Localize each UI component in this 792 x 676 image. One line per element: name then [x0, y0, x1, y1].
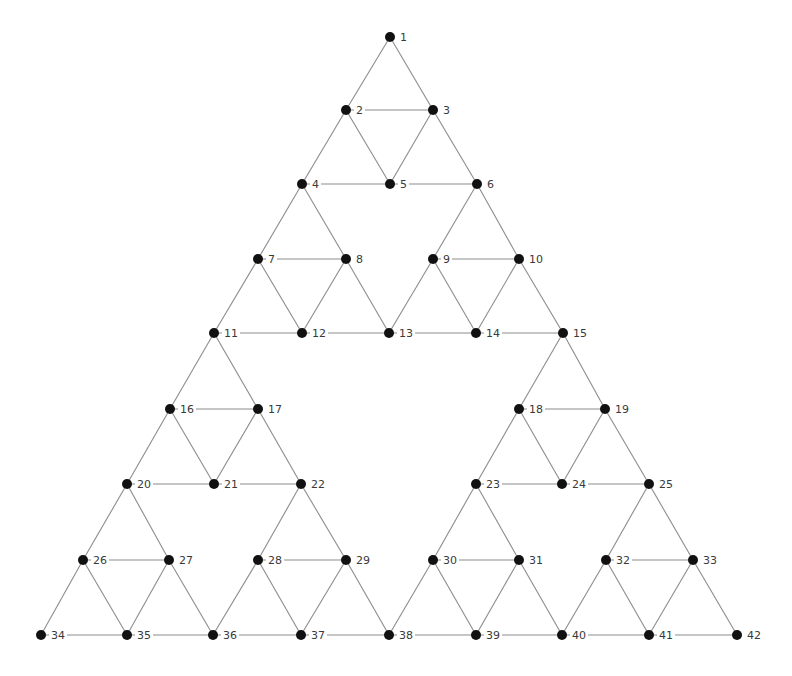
node-label-31: 31 [529, 554, 543, 567]
node-label-9: 9 [443, 253, 450, 266]
node-38 [384, 630, 394, 640]
node-19 [600, 404, 610, 414]
node-12 [297, 328, 307, 338]
sierpinski-graph: 1234567891011121314151617181920212223242… [0, 0, 792, 676]
node-20 [122, 479, 132, 489]
edge-8-13 [346, 259, 389, 333]
edge-30-38 [389, 560, 433, 635]
node-30 [428, 555, 438, 565]
edge-33-42 [693, 560, 737, 635]
node-17 [253, 404, 263, 414]
edge-32-41 [606, 560, 649, 635]
edge-30-39 [433, 560, 476, 635]
node-label-22: 22 [311, 478, 325, 491]
edge-7-12 [258, 259, 302, 333]
node-24 [557, 479, 567, 489]
node-11 [209, 328, 219, 338]
edge-25-33 [649, 484, 693, 560]
node-7 [253, 254, 263, 264]
node-label-29: 29 [356, 554, 370, 567]
node-label-10: 10 [529, 253, 543, 266]
edge-6-9 [433, 184, 477, 259]
edge-18-23 [476, 409, 519, 484]
node-5 [385, 179, 395, 189]
node-27 [164, 555, 174, 565]
edge-28-36 [213, 560, 258, 635]
node-label-4: 4 [312, 178, 319, 191]
edge-16-20 [127, 409, 170, 484]
edge-8-12 [302, 259, 346, 333]
edge-9-14 [433, 259, 476, 333]
node-18 [514, 404, 524, 414]
edge-28-37 [258, 560, 301, 635]
node-label-15: 15 [573, 327, 587, 340]
node-label-21: 21 [224, 478, 238, 491]
edge-18-24 [519, 409, 562, 484]
edge-29-37 [301, 560, 346, 635]
node-23 [471, 479, 481, 489]
node-label-27: 27 [179, 554, 193, 567]
edge-19-25 [605, 409, 649, 484]
edge-22-28 [258, 484, 301, 560]
node-42 [732, 630, 742, 640]
node-label-24: 24 [572, 478, 586, 491]
node-label-13: 13 [399, 327, 413, 340]
node-label-12: 12 [312, 327, 326, 340]
node-label-41: 41 [659, 629, 673, 642]
node-33 [688, 555, 698, 565]
edge-20-26 [83, 484, 127, 560]
node-label-37: 37 [311, 629, 325, 642]
node-29 [341, 555, 351, 565]
node-34 [36, 630, 46, 640]
edge-11-17 [214, 333, 258, 409]
node-14 [471, 328, 481, 338]
node-label-2: 2 [356, 104, 363, 117]
node-label-18: 18 [529, 403, 543, 416]
edge-20-27 [127, 484, 169, 560]
node-label-3: 3 [443, 104, 450, 117]
node-4 [297, 179, 307, 189]
edge-1-3 [390, 37, 433, 110]
node-label-16: 16 [180, 403, 194, 416]
node-40 [557, 630, 567, 640]
edge-16-21 [170, 409, 214, 484]
node-10 [514, 254, 524, 264]
node-8 [341, 254, 351, 264]
edge-26-34 [41, 560, 83, 635]
node-39 [471, 630, 481, 640]
node-label-36: 36 [223, 629, 237, 642]
edge-2-4 [302, 110, 346, 184]
edge-17-22 [258, 409, 301, 484]
node-15 [558, 328, 568, 338]
edge-10-15 [519, 259, 563, 333]
node-label-1: 1 [400, 31, 407, 44]
node-label-23: 23 [486, 478, 500, 491]
edge-11-16 [170, 333, 214, 409]
edge-29-38 [346, 560, 389, 635]
node-25 [644, 479, 654, 489]
edge-2-5 [346, 110, 390, 184]
node-label-11: 11 [224, 327, 238, 340]
node-6 [472, 179, 482, 189]
edge-4-8 [302, 184, 346, 259]
node-label-33: 33 [703, 554, 717, 567]
edge-31-39 [476, 560, 519, 635]
edge-9-13 [389, 259, 433, 333]
node-37 [296, 630, 306, 640]
edge-22-29 [301, 484, 346, 560]
node-26 [78, 555, 88, 565]
edge-27-36 [169, 560, 213, 635]
edge-23-30 [433, 484, 476, 560]
node-label-39: 39 [486, 629, 500, 642]
edge-25-32 [606, 484, 649, 560]
edge-32-40 [562, 560, 606, 635]
node-label-42: 42 [747, 629, 761, 642]
edge-26-35 [83, 560, 127, 635]
node-9 [428, 254, 438, 264]
node-label-14: 14 [486, 327, 500, 340]
edge-15-18 [519, 333, 563, 409]
node-label-19: 19 [615, 403, 629, 416]
node-2 [341, 105, 351, 115]
edge-31-40 [519, 560, 562, 635]
edge-27-35 [127, 560, 169, 635]
